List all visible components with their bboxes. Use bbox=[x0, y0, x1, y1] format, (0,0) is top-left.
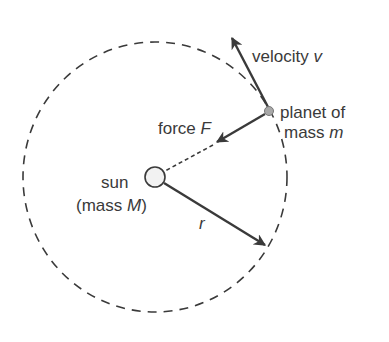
force-label: force F bbox=[158, 119, 213, 138]
planet-label-line1: planet of bbox=[280, 103, 345, 122]
velocity-label: velocity v bbox=[252, 47, 323, 66]
sun-label-line2: (mass M) bbox=[76, 196, 147, 215]
radius-arrow bbox=[164, 183, 265, 245]
force-extension-line bbox=[165, 145, 213, 171]
planet-icon bbox=[265, 107, 274, 116]
sun-label-line1: sun bbox=[101, 173, 128, 192]
radius-label: r bbox=[199, 214, 206, 233]
sun-icon bbox=[145, 167, 165, 187]
planet-label-line2: mass m bbox=[284, 123, 344, 142]
orbit-diagram: velocity v planet of mass m force F sun … bbox=[0, 0, 389, 342]
force-arrow bbox=[217, 114, 265, 142]
